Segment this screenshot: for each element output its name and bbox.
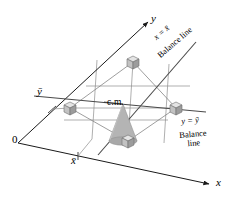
center-of-mass-figure: y x 0 ȳ x̄ c.m. x = x̄ Balance line y =… — [0, 0, 229, 208]
y-axis-label: y — [151, 13, 156, 25]
xbar-tick-label: x̄ — [71, 155, 76, 167]
mass-right — [170, 102, 182, 115]
mass-bottom — [122, 135, 134, 148]
origin-label: 0 — [12, 134, 18, 146]
mass-top — [127, 56, 139, 69]
ybar-tick-label: ȳ — [37, 86, 42, 98]
projection-lines — [52, 108, 92, 156]
x-axis — [18, 143, 209, 184]
balance-line-y-equation: y = ȳ — [181, 115, 199, 125]
x-axis-label: x — [216, 177, 221, 189]
mass-left — [64, 102, 76, 115]
axis-ticks — [48, 106, 78, 160]
center-of-mass-label: c.m. — [107, 98, 124, 108]
balance-line-y-caption: Balance line — [179, 129, 208, 149]
